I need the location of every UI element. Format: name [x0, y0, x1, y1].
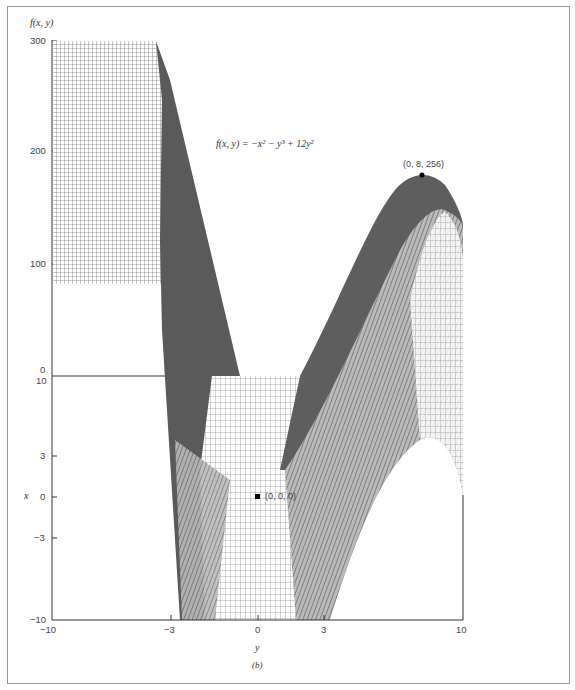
z-tick-200: 200 [30, 145, 46, 156]
x-tick-neg3: −3 [34, 532, 45, 543]
y-tick-0: 0 [255, 624, 260, 635]
x-tick-10: 10 [36, 375, 47, 386]
panel-label: (b) [252, 660, 263, 670]
z-tick-300: 300 [30, 35, 46, 46]
saddle-point-label: (0, 0, 0) [265, 491, 296, 501]
x-tick-0: 0 [40, 491, 45, 502]
x-tick-3: 3 [40, 450, 45, 461]
equation-label: f(x, y) = −x² − y³ + 12y² [216, 138, 314, 149]
z-axis-label: f(x, y) [30, 17, 53, 28]
y-tick-10: 10 [456, 624, 467, 635]
y-tick-neg3: −3 [164, 624, 175, 635]
saddle-point-marker [255, 494, 260, 499]
y-tick-neg10: −10 [40, 624, 56, 635]
surface-plot [0, 0, 575, 690]
y-axis-label: y [255, 642, 259, 653]
max-point-label: (0, 8, 256) [403, 159, 444, 169]
z-tick-100: 100 [30, 258, 46, 269]
max-point-marker [420, 173, 425, 178]
y-tick-3: 3 [321, 624, 326, 635]
z-tick-0: 0 [40, 364, 45, 375]
x-axis-label: x [24, 490, 28, 501]
